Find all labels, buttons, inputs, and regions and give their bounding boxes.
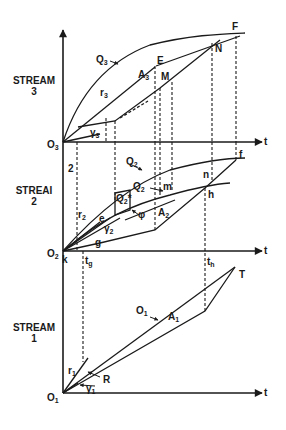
label-m: m [163,182,172,192]
label-tg: tg [85,256,93,269]
line-A3-dashed [120,101,148,118]
label-T: T [239,270,245,280]
time-label-3: t [264,137,267,147]
label-Q2: Q2 [126,157,138,170]
label-r3: r3 [100,88,108,101]
label-f: f [239,150,242,160]
origin-O2: O2 [47,249,59,262]
arrow-Q2hat [150,188,163,191]
label-M: M [161,72,169,82]
label-g: g [95,238,101,248]
label-F: F [232,22,238,32]
label-r1: r1 [68,366,76,379]
label-phi: φ [138,210,145,220]
label-A3: A3 [138,70,149,83]
origin-O3: O3 [47,140,59,153]
label-Q2star: Q2* [116,194,132,207]
label-O1: O1 [136,306,148,319]
time-label-1: t [264,388,267,398]
curve-Q2 [63,158,245,251]
label-r2: r2 [78,210,86,223]
label-Q2hat: Q2 [133,182,145,195]
label-h: h [208,190,214,200]
label-A1: A1 [168,312,179,325]
stream1-label: STREAM1 [4,322,64,344]
label-Y2: γ2 [104,224,113,237]
label-E: E [157,56,164,66]
label-two: 2 [68,164,74,174]
label-Q3: Q3 [96,55,108,68]
label-th: th [207,257,215,270]
label-Y1: γ1 [86,384,95,397]
label-k: k [62,255,68,265]
origin-O1: O1 [47,393,59,406]
stream2-label: STREAI2 [4,185,64,207]
line-Y1 [63,383,78,393]
label-A2: A2 [158,208,169,221]
line-g [63,160,236,251]
arrow-O1 [150,317,158,320]
label-Y3: γ3 [90,128,99,141]
label-N: N [215,44,222,54]
time-label-2: t [264,246,267,256]
stream3-label: STREAM3 [4,75,64,97]
label-n: n [203,170,209,180]
label-R: R [103,375,110,385]
line-O1 [63,267,235,393]
